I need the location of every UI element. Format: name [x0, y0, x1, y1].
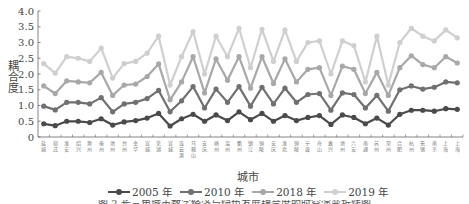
data-point [455, 107, 460, 112]
x-tick-label: 南京 [432, 140, 437, 153]
data-point [409, 53, 414, 58]
data-point [443, 54, 448, 59]
data-point [167, 82, 172, 87]
x-tick-label: 上海 [455, 140, 460, 153]
x-tick-label: 铜陵 [259, 140, 264, 153]
data-point [156, 34, 161, 39]
x-tick-label: 宿迁 [53, 140, 58, 153]
x-tick-label: 台州 [122, 140, 127, 152]
data-point [87, 80, 92, 85]
data-point [374, 93, 379, 98]
data-point [236, 109, 241, 114]
data-point [409, 83, 414, 88]
data-point [133, 118, 138, 123]
data-point [202, 90, 207, 95]
data-point [248, 117, 253, 122]
data-point [259, 27, 264, 32]
series-layer [41, 26, 460, 129]
data-point [225, 118, 230, 123]
x-tick-label: 镇江 [248, 140, 253, 153]
x-tick-label: 宣城 [145, 140, 150, 153]
x-tick-label: 宁波 [305, 140, 310, 153]
data-point [76, 100, 81, 105]
y-tick-label: 3.0 [18, 37, 34, 48]
data-point [99, 95, 104, 100]
x-tick-label: 泰州 [99, 140, 104, 152]
legend-item: 2018 年 [252, 184, 316, 199]
data-point [179, 54, 184, 59]
y-axis-title: 耦合度 [6, 60, 20, 94]
data-point [409, 26, 414, 31]
data-point [41, 104, 46, 109]
data-point [122, 82, 127, 87]
data-point [317, 65, 322, 70]
figure-caption: 图 2 长三角城市数字经济与绿色发展耦合度的时空演变折线图 [0, 200, 469, 204]
data-point [374, 116, 379, 121]
data-point [374, 34, 379, 39]
data-point [305, 115, 310, 120]
data-point [305, 92, 310, 97]
data-point [432, 109, 437, 114]
data-point [156, 88, 161, 93]
data-point [351, 43, 356, 48]
data-point [167, 123, 172, 128]
data-point [328, 122, 333, 127]
data-point [317, 38, 322, 43]
data-point [305, 67, 310, 72]
data-point [363, 91, 368, 96]
x-tick-label: 常州 [386, 140, 391, 152]
data-point [213, 87, 218, 92]
data-point [294, 100, 299, 105]
data-point [351, 67, 356, 72]
legend-line-marker-icon [108, 187, 130, 197]
x-tick-label: 淮安 [64, 140, 69, 153]
x-tick-label: 无锡 [420, 140, 425, 153]
x-tick-label: 安庆 [271, 140, 276, 153]
data-point [41, 61, 46, 66]
data-point [202, 119, 207, 124]
data-point [202, 105, 207, 110]
legend-item: 2019 年 [324, 184, 388, 199]
data-point [340, 90, 345, 95]
data-point [53, 123, 58, 128]
data-point [397, 65, 402, 70]
data-point [351, 115, 356, 120]
data-point [213, 56, 218, 61]
data-point [294, 59, 299, 64]
data-point [328, 71, 333, 76]
data-point [351, 92, 356, 97]
data-point [110, 93, 115, 98]
data-point [294, 79, 299, 84]
legend: 2005 年2010 年2018 年2019 年 [108, 184, 388, 199]
data-point [225, 100, 230, 105]
x-tick-label: 安庆 [202, 140, 207, 153]
data-point [236, 26, 241, 31]
data-point [167, 97, 172, 102]
data-point [271, 59, 276, 64]
data-point [386, 93, 391, 98]
data-point [145, 116, 150, 121]
data-point [248, 86, 253, 91]
data-point [248, 104, 253, 109]
data-point [432, 85, 437, 90]
data-point [87, 59, 92, 64]
data-point [41, 83, 46, 88]
data-point [53, 91, 58, 96]
x-tick-label: 舟山 [317, 140, 322, 153]
y-tick-label: 4.0 [18, 6, 34, 17]
data-point [76, 79, 81, 84]
data-point [190, 112, 195, 117]
x-tick-label: 杭州 [409, 140, 414, 152]
data-point [145, 51, 150, 56]
legend-item: 2010 年 [180, 184, 244, 199]
data-point [340, 38, 345, 43]
data-point [133, 100, 138, 105]
data-point [190, 54, 195, 59]
data-point [64, 100, 69, 105]
data-point [328, 108, 333, 113]
x-axis: 盐城宿迁淮安绍兴滁州泰州池州台州金华宣城芜湖宣城连云港马鞍山安庆扬州温州衢州镇江… [38, 135, 463, 160]
data-point [145, 74, 150, 79]
x-tick-label: 宣城 [168, 140, 173, 153]
series-2010 [41, 79, 460, 114]
data-point [363, 105, 368, 110]
